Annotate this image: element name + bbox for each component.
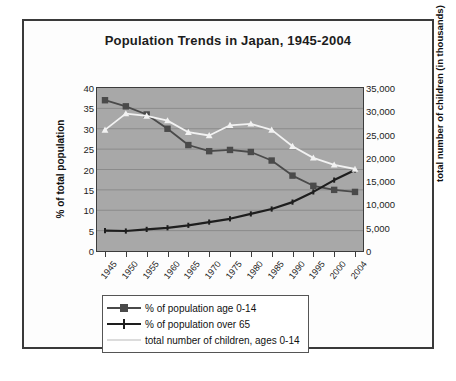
x-tick-1970 <box>209 252 210 257</box>
x-label-1985: 1985 <box>265 259 285 281</box>
series-0-point-9 <box>289 172 295 178</box>
legend-swatch-light-line-icon <box>107 334 141 346</box>
series-1-point-6 <box>229 216 231 221</box>
series-1-point-4 <box>187 223 189 228</box>
x-tick-1950 <box>126 252 127 257</box>
series-1-point-0 <box>104 228 106 233</box>
y-axis-right-title-text: total number of children (in thousands) <box>434 156 445 182</box>
x-label-1975: 1975 <box>224 259 244 281</box>
y-left-tick-20: 20 <box>83 164 94 175</box>
y-right-tick-5000: 5,000 <box>366 222 390 233</box>
x-label-1955: 1955 <box>140 259 160 281</box>
x-tick-1985 <box>272 252 273 257</box>
y-axis-right-title: total number of children (in thousands) <box>426 164 452 175</box>
x-label-1960: 1960 <box>161 259 181 281</box>
plot-container: % of total population 0510152025303540 0… <box>74 87 394 272</box>
series-0-point-4 <box>185 142 191 148</box>
x-tick-1955 <box>147 252 148 257</box>
y-right-tick-20000: 20,000 <box>366 152 395 163</box>
legend-label-0: % of population age 0-14 <box>145 303 256 314</box>
series-line-1 <box>105 170 355 231</box>
x-tick-1980 <box>251 252 252 257</box>
x-tick-1975 <box>230 252 231 257</box>
series-0-point-0 <box>102 97 108 103</box>
legend-label-1: % of population over 65 <box>145 319 250 330</box>
y-right-tick-25000: 25,000 <box>366 129 395 140</box>
series-0-point-6 <box>227 147 233 153</box>
y-right-tick-0: 0 <box>366 246 371 257</box>
legend-swatch-tick-icon <box>107 318 141 330</box>
x-label-1945: 1945 <box>99 259 119 281</box>
y-axis-left-ticks: 0510152025303540 <box>58 87 94 252</box>
series-1-point-10 <box>312 189 314 194</box>
series-1-point-3 <box>167 225 169 230</box>
series-0-point-10 <box>310 183 316 189</box>
series-0-point-12 <box>352 189 358 195</box>
y-right-tick-10000: 10,000 <box>366 199 395 210</box>
series-0-point-7 <box>248 149 254 155</box>
x-label-1995: 1995 <box>307 259 327 281</box>
y-right-tick-35000: 35,000 <box>366 83 395 94</box>
chart-figure-frame: Population Trends in Japan, 1945-2004 % … <box>22 19 434 349</box>
x-tick-1995 <box>313 252 314 257</box>
series-line-0 <box>105 100 355 192</box>
x-label-2004: 2004 <box>349 259 369 281</box>
legend-item-children-share: % of population age 0-14 <box>107 300 300 316</box>
y-left-tick-15: 15 <box>83 184 94 195</box>
y-right-tick-15000: 15,000 <box>366 176 395 187</box>
legend-item-elderly-share: % of population over 65 <box>107 316 300 332</box>
x-axis-ticks <box>96 252 364 259</box>
series-0-point-5 <box>206 148 212 154</box>
x-label-2000: 2000 <box>328 259 348 281</box>
y-left-tick-30: 30 <box>83 123 94 134</box>
y-left-tick-35: 35 <box>83 103 94 114</box>
chart-title: Population Trends in Japan, 1945-2004 <box>24 33 432 48</box>
x-tick-2004 <box>355 252 356 257</box>
y-left-tick-0: 0 <box>89 246 94 257</box>
x-tick-1960 <box>168 252 169 257</box>
series-0-point-1 <box>123 103 129 109</box>
series-1-point-1 <box>125 228 127 233</box>
chart-legend: % of population age 0-14 % of population… <box>102 295 309 353</box>
series-0-point-8 <box>268 157 274 163</box>
series-1-point-7 <box>250 211 252 216</box>
legend-label-2: total number of children, ages 0-14 <box>145 335 300 346</box>
series-1-point-2 <box>146 227 148 232</box>
y-left-tick-40: 40 <box>83 83 94 94</box>
plot-area <box>96 87 364 252</box>
y-left-tick-5: 5 <box>89 225 94 236</box>
x-tick-1990 <box>293 252 294 257</box>
x-tick-1945 <box>105 252 106 257</box>
series-1-point-9 <box>292 200 294 205</box>
y-right-tick-30000: 30,000 <box>366 106 395 117</box>
x-tick-2000 <box>334 252 335 257</box>
x-label-1990: 1990 <box>286 259 306 281</box>
x-label-1965: 1965 <box>182 259 202 281</box>
series-1-point-5 <box>208 219 210 224</box>
series-0-point-11 <box>331 187 337 193</box>
series-0-point-3 <box>164 126 170 132</box>
chart-series-svg <box>97 88 363 251</box>
x-label-1980: 1980 <box>244 259 264 281</box>
y-left-tick-10: 10 <box>83 205 94 216</box>
series-1-point-11 <box>333 177 335 182</box>
y-left-tick-25: 25 <box>83 144 94 155</box>
x-label-1970: 1970 <box>203 259 223 281</box>
legend-item-children-count: total number of children, ages 0-14 <box>107 332 300 348</box>
y-axis-right-ticks: 05,00010,00015,00020,00025,00030,00035,0… <box>366 87 412 252</box>
x-tick-1965 <box>188 252 189 257</box>
x-label-1950: 1950 <box>119 259 139 281</box>
legend-swatch-square-icon <box>107 302 141 314</box>
series-1-point-8 <box>271 206 273 211</box>
